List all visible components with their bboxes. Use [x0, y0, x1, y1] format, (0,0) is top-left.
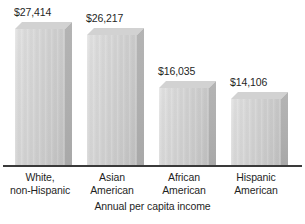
category-label-asian-american: Asian American	[72, 171, 152, 196]
x-axis-baseline	[3, 165, 302, 167]
bar-front-face	[231, 99, 281, 167]
plot-area: $27,414 $26,217 $16,035 $14,106	[0, 0, 305, 167]
bar-side-face	[65, 22, 72, 167]
bar-column-asian-american[interactable]	[87, 28, 137, 167]
category-label-african-american: African American	[144, 171, 224, 196]
bar-side-face	[209, 81, 216, 167]
category-label-line-1: White,	[0, 171, 80, 184]
category-label-line-1: Asian	[72, 171, 152, 184]
bar-value-label-1: $26,217	[86, 13, 123, 24]
bar-chart-figure: $27,414 $26,217 $16,035 $14,106 White, n…	[0, 0, 305, 224]
bar-value-label-3: $14,106	[230, 77, 267, 88]
bar-front-face	[15, 29, 65, 167]
category-label-white-non-hispanic: White, non-Hispanic	[0, 171, 80, 196]
bar-column-african-american[interactable]	[159, 81, 209, 167]
bar-value-label-0: $27,414	[14, 7, 51, 18]
bar-top-face	[231, 92, 288, 99]
category-label-line-1: Hispanic	[216, 171, 296, 184]
bar-value-label-2: $16,035	[158, 66, 195, 77]
category-label-line-2: American	[72, 184, 152, 197]
category-label-line-1: African	[144, 171, 224, 184]
bar-column-hispanic-american[interactable]	[231, 92, 281, 167]
category-label-line-2: American	[216, 184, 296, 197]
bar-side-face	[281, 92, 288, 167]
bar-top-face	[15, 22, 72, 29]
category-label-line-2: American	[144, 184, 224, 197]
x-axis-title: Annual per capita income	[0, 200, 305, 212]
category-label-hispanic-american: Hispanic American	[216, 171, 296, 196]
bar-top-face	[87, 28, 144, 35]
category-label-line-2: non-Hispanic	[0, 184, 80, 197]
bar-front-face	[87, 35, 137, 167]
bar-top-face	[159, 81, 216, 88]
bar-column-white-non-hispanic[interactable]	[15, 22, 65, 167]
bar-front-face	[159, 88, 209, 167]
bar-side-face	[137, 28, 144, 167]
